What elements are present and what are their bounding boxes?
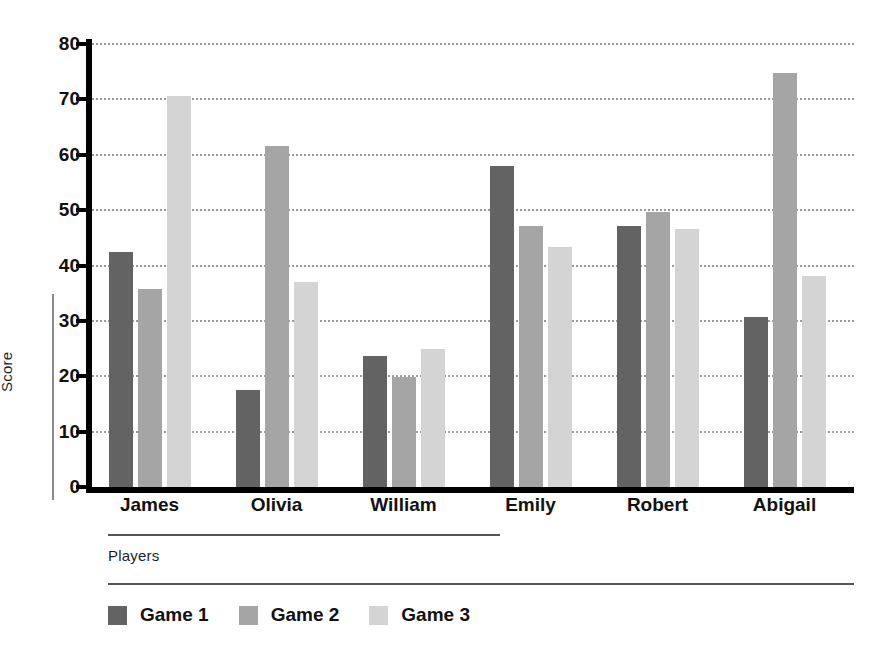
x-axis-tick-label: Abigail [753,494,816,516]
y-axis-tickmark [76,430,87,434]
y-axis-tickmark [76,208,87,212]
y-axis-tick-label: 70 [38,88,80,110]
legend-label: Game 2 [271,604,340,626]
y-axis-tick-label: 30 [38,310,80,332]
x-axis-tick-label: William [370,494,436,516]
plot-area [92,44,854,487]
x-axis-label-rule-top [108,534,500,536]
legend-item[interactable]: Game 1 [108,604,209,626]
bar[interactable] [167,96,191,488]
bar[interactable] [421,349,445,487]
y-axis-tick-labels: 01020304050607080 [20,0,80,645]
x-axis-spine [86,487,854,493]
y-axis-tick-label: 0 [38,476,80,498]
x-axis-tick-labels: JamesOliviaWilliamEmilyRobertAbigail [92,494,854,524]
y-axis-tickmark [76,264,87,268]
y-axis-tick-label: 80 [38,33,80,55]
bar[interactable] [519,226,543,487]
legend-label: Game 1 [140,604,209,626]
y-axis-tick-label: 20 [38,365,80,387]
y-axis-tickmark [76,42,87,46]
bar-group [109,44,191,487]
y-axis-tick-label: 50 [38,199,80,221]
x-axis-tick-label: James [120,494,179,516]
y-axis-tick-label: 60 [38,144,80,166]
bar[interactable] [675,229,699,487]
bar[interactable] [802,276,826,487]
bar-group [236,44,318,487]
legend-swatch-icon [108,606,127,625]
legend-item[interactable]: Game 3 [369,604,470,626]
bar[interactable] [236,390,260,487]
y-axis-tick-label: 10 [38,421,80,443]
x-axis-tick-label: Olivia [251,494,303,516]
legend-item[interactable]: Game 2 [239,604,340,626]
bar[interactable] [265,146,289,487]
bar-group [363,44,445,487]
bar[interactable] [392,377,416,487]
bar[interactable] [744,317,768,487]
bar[interactable] [490,166,514,487]
chart-canvas: Score 01020304050607080 JamesOliviaWilli… [0,0,890,645]
bar[interactable] [548,247,572,487]
bar[interactable] [363,356,387,487]
bar-group [490,44,572,487]
bar[interactable] [617,226,641,487]
bar[interactable] [109,252,133,487]
bar-group [744,44,826,487]
legend-rule [108,583,854,585]
y-axis-tickmark [76,97,87,101]
legend-swatch-icon [369,606,388,625]
legend-label: Game 3 [401,604,470,626]
y-axis-tickmark [76,485,87,489]
legend-swatch-icon [239,606,258,625]
bar-group [617,44,699,487]
bar[interactable] [646,212,670,487]
bar[interactable] [138,289,162,487]
x-axis-tick-label: Robert [627,494,688,516]
x-axis-tick-label: Emily [505,494,556,516]
legend: Game 1Game 2Game 3 [108,602,500,628]
y-axis-tickmark [76,319,87,323]
y-axis-tick-label: 40 [38,255,80,277]
y-axis-title: Score [0,272,15,392]
bar[interactable] [773,73,797,487]
y-axis-tickmark [76,374,87,378]
y-axis-tickmark [76,153,87,157]
bar[interactable] [294,282,318,487]
x-axis-title: Players [108,547,159,564]
bar-series-container [92,44,854,487]
